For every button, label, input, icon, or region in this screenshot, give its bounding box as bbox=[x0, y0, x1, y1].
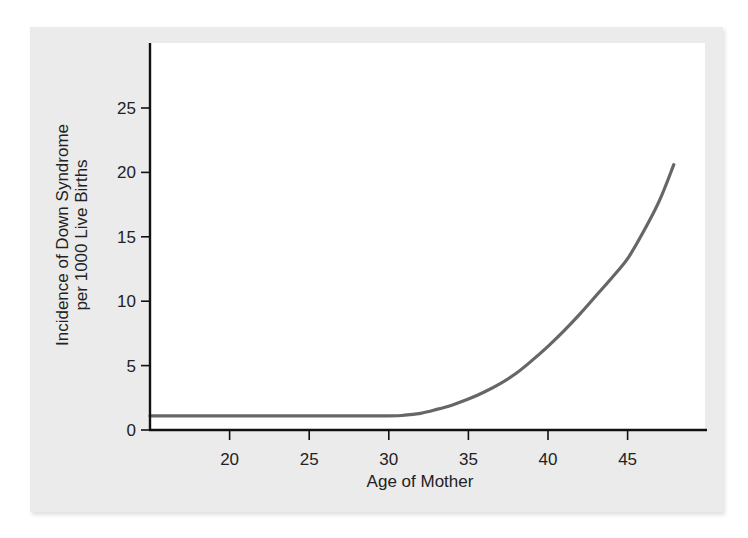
y-axis-title-line-1: Incidence of Down Syndrome bbox=[53, 124, 72, 346]
line-chart: 0510152025 202530354045 Age of Mother In… bbox=[0, 0, 748, 538]
y-tick-label: 5 bbox=[127, 357, 136, 376]
y-tick-label: 15 bbox=[117, 228, 136, 247]
y-tick-label: 10 bbox=[117, 292, 136, 311]
y-tick-label: 20 bbox=[117, 163, 136, 182]
x-axis-title: Age of Mother bbox=[367, 472, 474, 491]
x-tick-label: 25 bbox=[300, 450, 319, 469]
y-axis-ticks: 0510152025 bbox=[117, 99, 150, 440]
x-tick-label: 40 bbox=[539, 450, 558, 469]
x-axis-ticks: 202530354045 bbox=[220, 430, 637, 469]
incidence-curve bbox=[150, 165, 674, 416]
x-tick-label: 20 bbox=[220, 450, 239, 469]
y-axis-title: Incidence of Down Syndrome per 1000 Live… bbox=[53, 124, 91, 346]
y-tick-label: 25 bbox=[117, 99, 136, 118]
x-tick-label: 35 bbox=[459, 450, 478, 469]
x-tick-label: 30 bbox=[379, 450, 398, 469]
y-tick-label: 0 bbox=[127, 421, 136, 440]
x-tick-label: 45 bbox=[618, 450, 637, 469]
y-axis-title-line-2: per 1000 Live Births bbox=[72, 159, 91, 310]
